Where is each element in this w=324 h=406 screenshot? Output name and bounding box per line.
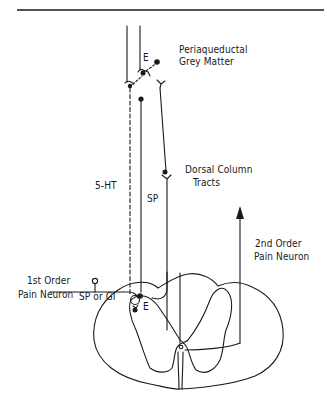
label-enkephalin-top: E bbox=[143, 52, 149, 64]
label-serotonin: 5-HT bbox=[95, 180, 117, 192]
label-dorsal-line1: Dorsal Column bbox=[185, 164, 252, 176]
synapse-dot-top bbox=[141, 71, 146, 76]
synapse-dot-bottom-right bbox=[137, 293, 143, 299]
label-second-order-line1: 2nd Order bbox=[255, 238, 301, 250]
pain-pathway-diagram: Periaqueductal Grey Matter E 5-HT SP Dor… bbox=[0, 0, 324, 406]
central-canal bbox=[179, 345, 183, 349]
sp-cell-body bbox=[138, 96, 143, 101]
enk-cell-body-top bbox=[154, 59, 160, 65]
label-sp-or-gi: SP or GI bbox=[79, 291, 115, 303]
label-enkephalin-bottom: E bbox=[143, 301, 149, 313]
enk-cell-body-bottom bbox=[133, 308, 138, 313]
label-first-order-line2: Pain Neuron bbox=[18, 289, 73, 301]
label-substance-p: SP bbox=[147, 193, 158, 205]
decussation-path bbox=[185, 343, 240, 350]
label-pag-line1: Periaqueductal bbox=[179, 44, 248, 56]
enkephalin-axon-top bbox=[143, 63, 157, 73]
spinal-cord-outline bbox=[94, 274, 284, 390]
synapse-left-top bbox=[125, 81, 134, 84]
synapse-dot-5ht bbox=[128, 84, 132, 88]
diagram-canvas bbox=[0, 0, 324, 406]
dorsal-column-upper bbox=[160, 88, 166, 171]
synapse-y-bottom bbox=[133, 305, 138, 308]
label-first-order-line1: 1st Order bbox=[27, 275, 70, 287]
label-dorsal-line2: Tracts bbox=[193, 177, 220, 189]
synapse-y-top bbox=[157, 80, 165, 88]
afferent-terminal-knob bbox=[92, 278, 97, 283]
ventral-fissure bbox=[178, 352, 183, 389]
ascending-arrowhead-icon bbox=[236, 206, 244, 219]
dorsal-column-lower bbox=[162, 175, 171, 330]
label-pag-line2: Grey Matter bbox=[179, 56, 234, 68]
label-second-order-line2: Pain Neuron bbox=[254, 251, 309, 263]
dorsal-column-dot bbox=[163, 170, 168, 175]
